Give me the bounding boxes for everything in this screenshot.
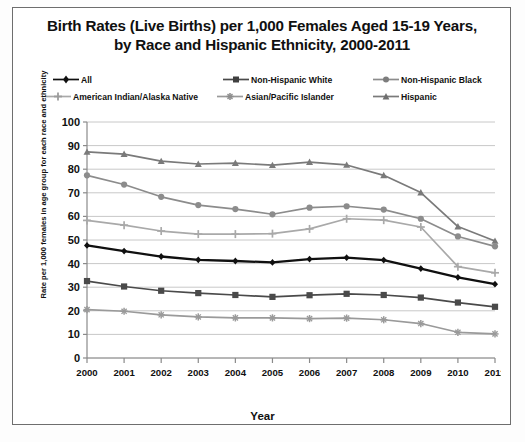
series-hispanic bbox=[84, 148, 499, 243]
chart-title-line-2: by Race and Hispanic Ethnicity, 2000-201… bbox=[27, 35, 497, 54]
data-point bbox=[269, 259, 275, 266]
data-point bbox=[120, 308, 127, 315]
legend-label-non-hispanic-white: Non-Hispanic White bbox=[251, 75, 332, 85]
data-point bbox=[380, 216, 388, 224]
x-axis-tick-label: 2009 bbox=[410, 367, 431, 378]
square-marker-icon bbox=[223, 74, 249, 85]
series-american-indian-alaska-native bbox=[83, 215, 499, 277]
legend-label-american-indian-alaska-native: American Indian/Alaska Native bbox=[73, 92, 198, 102]
y-axis-tick-label: 100 bbox=[62, 118, 80, 128]
legend-item-asian-pacific-islander[interactable]: Asian/Pacific Islander bbox=[217, 91, 334, 102]
data-point bbox=[344, 254, 350, 261]
data-point bbox=[194, 230, 202, 238]
y-axis-tick-label: 50 bbox=[68, 234, 80, 246]
x-axis-tick-label: 2005 bbox=[262, 367, 284, 378]
series-line bbox=[87, 281, 495, 307]
data-point bbox=[83, 216, 91, 224]
y-axis-tick-label: 20 bbox=[68, 305, 80, 317]
data-point bbox=[344, 291, 350, 297]
data-point bbox=[417, 320, 424, 327]
legend-item-hispanic[interactable]: Hispanic bbox=[373, 91, 437, 102]
data-point bbox=[381, 257, 387, 264]
data-point bbox=[492, 243, 498, 249]
x-axis-tick-label: 2008 bbox=[373, 367, 395, 378]
data-point bbox=[454, 329, 461, 336]
data-point bbox=[83, 306, 90, 313]
y-axis-tick-label: 30 bbox=[68, 281, 80, 293]
series-non-hispanic-black bbox=[84, 172, 498, 249]
triangle-marker-icon bbox=[373, 91, 399, 102]
legend-item-all[interactable]: All bbox=[53, 74, 92, 85]
plot-area: 0102030405060708090100200020012002200320… bbox=[57, 118, 501, 390]
legend-item-non-hispanic-white[interactable]: Non-Hispanic White bbox=[223, 74, 332, 85]
data-point bbox=[195, 202, 201, 208]
plot-svg: 0102030405060708090100200020012002200320… bbox=[57, 118, 501, 390]
data-point bbox=[381, 292, 387, 298]
plus-marker-icon bbox=[45, 91, 71, 102]
data-point bbox=[232, 292, 238, 298]
data-point bbox=[268, 230, 276, 238]
x-axis-tick-label: 2006 bbox=[299, 367, 320, 378]
data-point bbox=[121, 248, 127, 255]
data-point bbox=[232, 314, 239, 321]
data-point bbox=[418, 294, 424, 300]
data-point bbox=[492, 281, 498, 288]
data-point bbox=[84, 172, 90, 178]
series-line bbox=[87, 152, 495, 241]
y-axis-tick-label: 80 bbox=[68, 163, 80, 175]
y-axis-tick-label: 10 bbox=[68, 328, 80, 340]
data-point bbox=[343, 315, 350, 322]
data-point bbox=[84, 242, 90, 249]
y-axis-title: Rate per 1,000 females in age group for … bbox=[39, 60, 48, 310]
y-axis-tick-label: 90 bbox=[68, 140, 80, 152]
data-point bbox=[491, 269, 499, 277]
legend-label-asian-pacific-islander: Asian/Pacific Islander bbox=[245, 92, 334, 102]
star-marker-icon bbox=[217, 91, 243, 102]
y-axis-tick-label: 70 bbox=[68, 187, 80, 199]
data-point bbox=[84, 278, 90, 284]
legend-item-non-hispanic-black[interactable]: Non-Hispanic Black bbox=[373, 74, 482, 85]
chart-title-line-1: Birth Rates (Live Births) per 1,000 Fema… bbox=[47, 17, 477, 34]
data-point bbox=[306, 315, 313, 322]
data-point bbox=[344, 203, 350, 209]
data-point bbox=[380, 316, 387, 323]
data-point bbox=[120, 221, 128, 229]
series-line bbox=[87, 175, 495, 246]
data-point bbox=[491, 330, 498, 337]
data-point bbox=[492, 304, 498, 310]
chart-title: Birth Rates (Live Births) per 1,000 Fema… bbox=[27, 16, 497, 54]
legend-label-non-hispanic-black: Non-Hispanic Black bbox=[401, 75, 482, 85]
data-point bbox=[121, 181, 127, 187]
x-axis-tick-label: 2000 bbox=[76, 367, 97, 378]
data-point bbox=[158, 311, 165, 318]
x-axis-tick-label: 2011 bbox=[485, 367, 501, 378]
data-point bbox=[269, 211, 275, 217]
legend-label-all: All bbox=[81, 75, 92, 85]
data-point bbox=[418, 216, 424, 222]
x-axis-tick-label: 2004 bbox=[225, 367, 247, 378]
series-line bbox=[87, 310, 495, 334]
data-point bbox=[157, 227, 165, 235]
y-axis-tick-label: 40 bbox=[68, 258, 80, 270]
series-line bbox=[87, 219, 495, 273]
data-point bbox=[306, 225, 314, 233]
data-point bbox=[381, 206, 387, 212]
circle-marker-icon bbox=[373, 74, 399, 85]
y-axis-tick-label: 0 bbox=[74, 352, 80, 364]
chart-legend: All Non-Hispanic White Non-Hispanic Blac… bbox=[35, 74, 503, 110]
data-point bbox=[306, 205, 312, 211]
data-point bbox=[269, 314, 276, 321]
series-line bbox=[87, 245, 495, 284]
data-point bbox=[158, 253, 164, 260]
x-axis-tick-label: 2002 bbox=[151, 367, 172, 378]
data-point bbox=[158, 194, 164, 200]
chart-frame: Birth Rates (Live Births) per 1,000 Fema… bbox=[12, 7, 511, 425]
data-point bbox=[231, 230, 239, 238]
data-point bbox=[232, 206, 238, 212]
data-point bbox=[158, 288, 164, 294]
figure: Birth Rates (Live Births) per 1,000 Fema… bbox=[0, 0, 525, 442]
data-point bbox=[195, 256, 201, 263]
data-point bbox=[307, 256, 313, 263]
legend-item-american-indian-alaska-native[interactable]: American Indian/Alaska Native bbox=[45, 91, 198, 102]
legend-label-hispanic: Hispanic bbox=[401, 92, 437, 102]
